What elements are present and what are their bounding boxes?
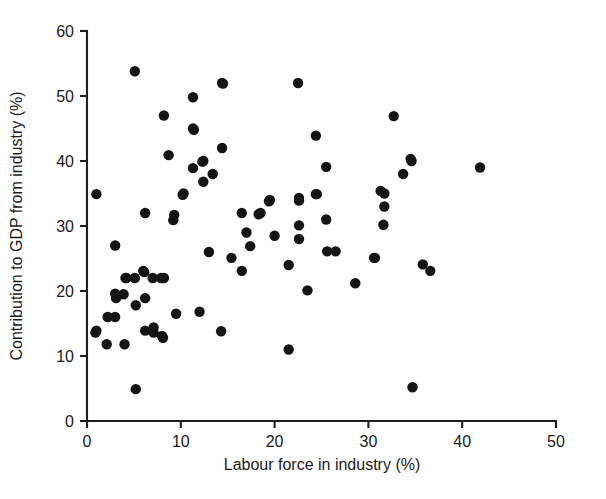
data-point — [321, 162, 331, 172]
data-point — [110, 240, 120, 250]
x-tick-label: 10 — [172, 433, 190, 450]
data-point — [207, 169, 217, 179]
data-point — [378, 220, 388, 230]
data-point — [140, 293, 150, 303]
data-point — [216, 326, 226, 336]
data-point — [130, 66, 140, 76]
x-axis-title: Labour force in industry (%) — [224, 456, 421, 473]
data-point — [294, 193, 304, 203]
data-point — [131, 300, 141, 310]
y-tick-label: 60 — [56, 23, 74, 40]
data-point — [217, 143, 227, 153]
data-point — [245, 241, 255, 251]
data-point — [198, 177, 208, 187]
data-point — [312, 189, 322, 199]
y-tick-label: 10 — [56, 348, 74, 365]
x-axis: 01020304050 — [83, 421, 565, 450]
x-tick-label: 20 — [266, 433, 284, 450]
data-point — [241, 227, 251, 237]
data-point — [159, 273, 169, 283]
y-tick-label: 50 — [56, 88, 74, 105]
data-point — [91, 189, 101, 199]
data-point — [379, 188, 389, 198]
data-point — [198, 156, 208, 166]
data-point — [311, 130, 321, 140]
data-point — [237, 208, 247, 218]
data-points-layer — [90, 66, 485, 394]
data-point — [158, 333, 168, 343]
data-point — [188, 163, 198, 173]
data-point — [237, 266, 247, 276]
data-point — [130, 273, 140, 283]
data-point — [255, 208, 265, 218]
data-point — [283, 344, 293, 354]
data-point — [406, 156, 416, 166]
y-axis: 0102030405060 — [56, 23, 87, 430]
x-tick-label: 30 — [360, 433, 378, 450]
data-point — [102, 339, 112, 349]
data-point — [265, 195, 275, 205]
data-point — [294, 220, 304, 230]
scatter-plot-canvas: 0102030405060 01020304050 Labour force i… — [0, 0, 606, 499]
y-tick-label: 0 — [65, 413, 74, 430]
y-tick-label: 20 — [56, 283, 74, 300]
data-point — [110, 312, 120, 322]
data-point — [370, 253, 380, 263]
data-point — [204, 247, 214, 257]
data-point — [178, 188, 188, 198]
data-point — [294, 234, 304, 244]
data-point — [188, 92, 198, 102]
data-point — [425, 266, 435, 276]
data-point — [139, 267, 149, 277]
data-point — [131, 384, 141, 394]
x-tick-label: 40 — [453, 433, 471, 450]
data-point — [218, 78, 228, 88]
y-tick-label: 30 — [56, 218, 74, 235]
data-point — [379, 201, 389, 211]
data-point — [283, 260, 293, 270]
data-point — [163, 150, 173, 160]
y-axis-title: Contribution to GDP from industry (%) — [8, 91, 25, 360]
data-point — [119, 339, 129, 349]
data-point — [293, 78, 303, 88]
data-point — [189, 125, 199, 135]
data-point — [350, 278, 360, 288]
x-tick-label: 0 — [83, 433, 92, 450]
data-point — [169, 210, 179, 220]
data-point — [226, 253, 236, 263]
scatter-plot-figure: 0102030405060 01020304050 Labour force i… — [0, 0, 606, 499]
data-point — [475, 162, 485, 172]
data-point — [398, 169, 408, 179]
data-point — [269, 231, 279, 241]
data-point — [140, 208, 150, 218]
x-tick-label: 50 — [547, 433, 565, 450]
data-point — [90, 327, 100, 337]
data-point — [330, 246, 340, 256]
data-point — [194, 307, 204, 317]
data-point — [171, 309, 181, 319]
y-tick-label: 40 — [56, 153, 74, 170]
data-point — [407, 382, 417, 392]
data-point — [159, 110, 169, 120]
data-point — [321, 214, 331, 224]
data-point — [302, 285, 312, 295]
data-point — [118, 289, 128, 299]
data-point — [389, 111, 399, 121]
